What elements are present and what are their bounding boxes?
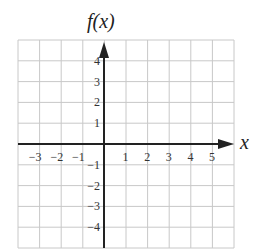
- x-tick-labels: −3−2−112345: [29, 150, 215, 164]
- x-tick-label: −3: [29, 150, 42, 164]
- coordinate-grid-chart: −3−2−112345 4321−1−2−3−4 x f(x): [0, 0, 258, 251]
- x-tick-label: −2: [50, 150, 63, 164]
- y-tick-label: 4: [94, 54, 100, 68]
- y-tick-label: −3: [87, 199, 100, 213]
- x-axis-arrow-icon: [218, 139, 234, 149]
- y-tick-label: 2: [94, 95, 100, 109]
- x-axis-label: x: [239, 131, 249, 153]
- y-axis-arrow-icon: [99, 42, 109, 58]
- y-tick-label: 3: [94, 75, 100, 89]
- y-tick-label: −4: [87, 220, 100, 234]
- y-tick-label: −1: [87, 158, 100, 172]
- y-tick-label: 1: [94, 116, 100, 130]
- y-tick-label: −2: [87, 179, 100, 193]
- x-tick-label: 1: [123, 150, 129, 164]
- x-tick-label: 3: [166, 150, 172, 164]
- x-tick-label: 4: [187, 150, 193, 164]
- x-tick-label: 2: [144, 150, 150, 164]
- y-axis-label: f(x): [87, 10, 115, 33]
- x-tick-label: −1: [72, 150, 85, 164]
- x-tick-label: 5: [209, 150, 215, 164]
